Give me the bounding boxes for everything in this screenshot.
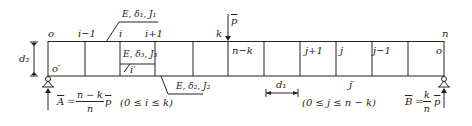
bottom-chord-properties: E, δ₂, J₂ <box>176 82 210 91</box>
node-i-plus-1-label: i+1 <box>145 29 163 39</box>
left-reaction-equals: = <box>67 97 75 107</box>
node-i-minus-1-label: i−1 <box>78 29 96 39</box>
left-reaction-denominator: n <box>76 102 104 114</box>
left-reaction-fraction: n − k n <box>76 90 104 113</box>
panel-j-minus-1-label: j−1 <box>373 46 391 56</box>
panel-o-right-label: o <box>436 46 442 56</box>
right-reaction-load: p <box>434 97 440 107</box>
panel-j-label: j <box>340 46 343 56</box>
right-reaction-numerator: k <box>423 90 431 102</box>
node-k-label: k <box>216 29 222 39</box>
panel-width-dimension-label: d₁ <box>276 80 286 90</box>
left-reaction-numerator: n − k <box>76 90 104 102</box>
vertical-properties: E, δ₃, J₃ <box>123 50 157 59</box>
right-reaction-fraction: k n <box>423 90 431 113</box>
left-reaction-symbol: A <box>57 97 64 107</box>
panel-n-minus-k-label: n−k <box>232 46 253 56</box>
node-i-prime-label: i′ <box>130 65 135 75</box>
panel-j-plus-1-label: j+1 <box>305 46 323 56</box>
left-reaction-load: p <box>105 97 111 107</box>
height-dimension-label: d₂ <box>19 54 29 64</box>
node-o-prime-label: o′ <box>52 64 60 74</box>
node-i-label: i <box>119 29 122 39</box>
node-o-label: o <box>48 29 54 39</box>
top-chord-properties: E, δ₁, J₁ <box>122 10 156 19</box>
node-n-label: n <box>442 29 448 39</box>
right-reaction-denominator: n <box>423 102 431 114</box>
right-range-label: (0 ≤ j ≤ n − k) <box>302 98 376 108</box>
load-label: p <box>231 16 237 26</box>
node-j-prime-label: j′ <box>349 80 354 90</box>
left-range-label: (0 ≤ i ≤ k) <box>120 98 173 108</box>
right-reaction-symbol: B <box>405 97 412 107</box>
